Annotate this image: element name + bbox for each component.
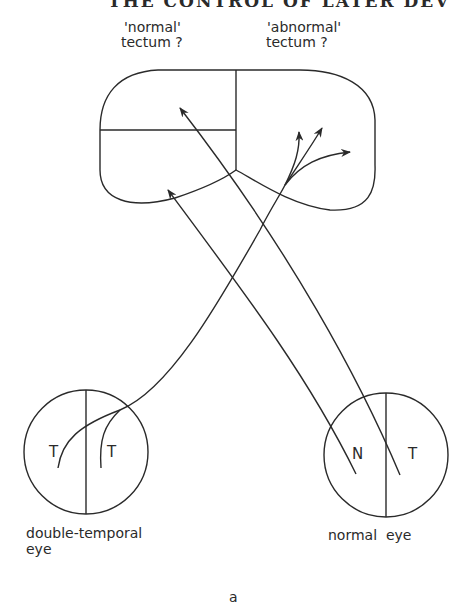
eye-right-temporal-label: T [408,445,417,463]
fiber-double-temporal-left [58,185,285,468]
fiber-fan-3 [285,152,350,185]
diagram-canvas [0,0,467,605]
eye-left-half-label-2: T [107,443,116,461]
fiber-normal-eye-temporal [180,108,400,475]
eye-right-nasal-label: N [352,445,363,463]
eye-left-half-label: T [49,443,58,461]
fiber-normal-eye-nasal [168,190,356,474]
double-temporal-eye-label-line1: double-temporal [26,526,142,541]
panel-label: a [229,590,238,605]
fiber-fan-2 [285,128,322,185]
double-temporal-eye-label-line2: eye [26,542,52,557]
tectum-outline [100,70,375,210]
normal-eye-label: normal eye [328,528,411,543]
